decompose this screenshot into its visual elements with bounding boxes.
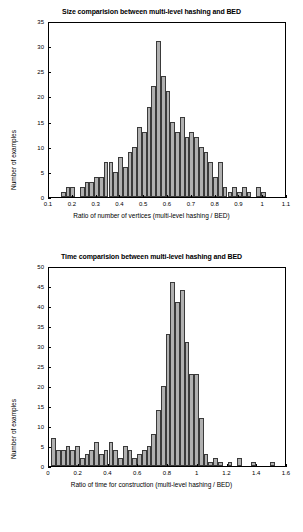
x-tick [137,464,138,467]
x-tick-label: 1.4 [252,470,260,476]
x-tick-label: 1 [195,470,198,476]
x-tick [108,464,109,467]
x-tick [262,195,263,198]
x-tick-label: 0.7 [187,201,195,207]
x-tick-label: 0.6 [163,201,171,207]
x-tick-label: 0.4 [103,470,111,476]
y-tick-label: 0 [22,464,44,470]
y-tick-label: 15 [22,120,44,126]
x-tick [191,195,192,198]
x-tick [227,464,228,467]
histogram-bar [228,462,233,466]
y-tick [48,97,51,98]
histogram-bar [247,192,252,197]
y-tick [48,198,51,199]
y-tick-label: 10 [22,424,44,430]
histogram-bar [270,462,275,466]
chart-1-axes [48,22,286,198]
x-tick-label: 1.6 [282,470,290,476]
x-tick-label: 0.5 [139,201,147,207]
y-tick [48,347,51,348]
x-tick [238,195,239,198]
y-tick-label: 20 [22,94,44,100]
y-tick [48,407,51,408]
chart-2-xlabel: Ratio of time for construction (multi-le… [0,481,303,488]
y-tick-label: 20 [22,384,44,390]
x-tick-label: 1.2 [222,470,230,476]
y-tick-label: 30 [22,344,44,350]
x-tick-label: 0.8 [210,201,218,207]
x-tick [119,195,120,198]
chart-1-xlabel: Ratio of number of vertices (multi-level… [0,212,303,219]
x-tick [167,464,168,467]
x-tick [256,464,257,467]
y-tick [48,327,51,328]
x-tick-label: 0.9 [234,201,242,207]
x-tick-label: 0.8 [163,470,171,476]
x-tick [143,195,144,198]
x-tick [78,464,79,467]
x-tick-label: 1.1 [282,201,290,207]
x-tick-label: 0.2 [68,201,76,207]
x-tick [197,464,198,467]
y-tick [48,387,51,388]
y-tick-label: 50 [22,264,44,270]
x-tick-label: 0.1 [44,201,52,207]
y-tick-label: 0 [22,195,44,201]
y-tick [48,173,51,174]
y-tick-label: 5 [22,170,44,176]
y-tick [48,72,51,73]
x-tick-label: 0.6 [133,470,141,476]
chart-2-axes [48,267,286,467]
y-tick-label: 25 [22,69,44,75]
y-tick [48,447,51,448]
chart-1-bars [49,23,285,197]
y-tick-label: 40 [22,304,44,310]
y-tick [48,427,51,428]
y-tick [48,47,51,48]
y-tick [48,307,51,308]
x-tick-label: 0 [46,470,49,476]
y-tick [48,22,51,23]
x-tick-label: 0.4 [115,201,123,207]
y-tick-label: 10 [22,145,44,151]
y-tick [48,123,51,124]
chart-2-bars [49,268,285,466]
y-tick-label: 25 [22,364,44,370]
y-tick-label: 35 [22,19,44,25]
y-tick [48,467,51,468]
chart-2-ylabel: Number of examples [10,399,17,459]
x-tick [286,464,287,467]
y-tick [48,287,51,288]
y-tick [48,267,51,268]
histogram-bar [218,462,223,466]
y-tick [48,148,51,149]
x-tick [72,195,73,198]
y-tick-label: 35 [22,324,44,330]
x-tick-label: 0.3 [91,201,99,207]
x-tick-label: 1 [261,201,264,207]
chart-1-ylabel: Number of examples [10,130,17,190]
histogram-bar [237,458,242,466]
x-tick [286,195,287,198]
y-tick-label: 15 [22,404,44,410]
x-tick-label: 0.2 [74,470,82,476]
chart-2-plot: 00.20.40.60.811.21.41.605101520253035404… [0,245,303,532]
y-tick-label: 5 [22,444,44,450]
y-tick-label: 30 [22,44,44,50]
y-tick-label: 45 [22,284,44,290]
x-tick [215,195,216,198]
chart-1-plot: 0.10.20.30.40.50.60.70.80.911.1051015202… [0,0,303,245]
x-tick [167,195,168,198]
x-tick [96,195,97,198]
y-tick [48,367,51,368]
